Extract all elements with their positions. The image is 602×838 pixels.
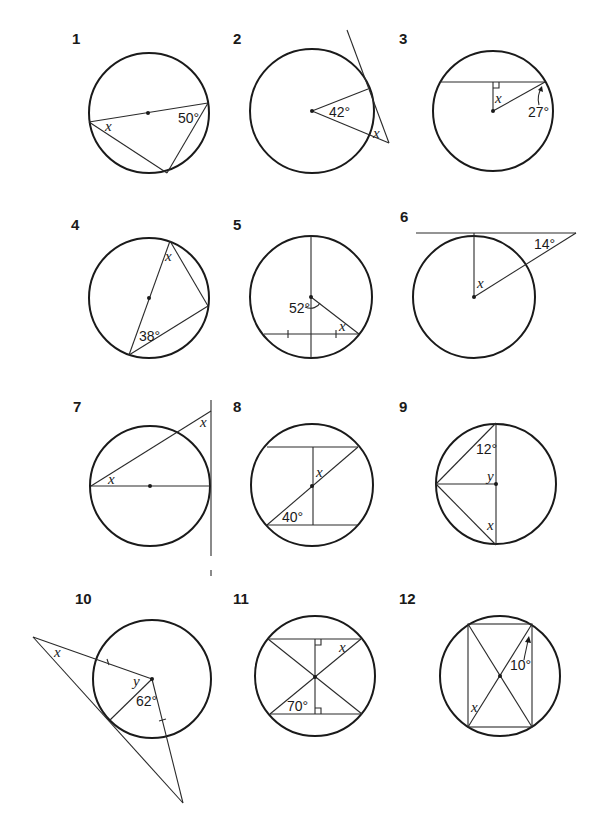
arrow-head-icon <box>525 636 531 643</box>
center-point <box>147 296 151 300</box>
radius <box>311 297 359 334</box>
center-point <box>491 109 495 113</box>
problem-number: 4 <box>71 216 80 233</box>
angle-label-unknown-2: x <box>199 414 207 430</box>
angle-label-given: 40° <box>282 509 303 525</box>
center-point <box>146 111 150 115</box>
problem-7: 7 x x <box>73 398 211 576</box>
problem-11: 11 x 70° <box>233 590 375 736</box>
angle-label-unknown: x <box>476 275 484 291</box>
angle-label-unknown: x <box>53 644 61 660</box>
problem-number: 9 <box>399 398 407 415</box>
problem-number: 7 <box>73 398 81 415</box>
problem-5: 5 52° x <box>233 216 372 358</box>
center-point <box>150 677 154 681</box>
right-angle-mark <box>493 82 499 88</box>
angle-label-unknown: x <box>494 90 502 106</box>
problem-6: 6 14° x <box>400 208 576 358</box>
angle-label-given: 14° <box>534 236 555 252</box>
problem-1: 1 x 50° <box>72 30 209 173</box>
problem-number: 5 <box>233 216 241 233</box>
problem-number: 1 <box>72 30 80 47</box>
problem-2: 2 42° x <box>233 30 389 173</box>
angle-label-given: 62° <box>136 693 157 709</box>
angle-label-unknown: x <box>338 639 346 655</box>
center-point <box>310 484 314 488</box>
angle-label-given: 52° <box>289 300 310 316</box>
problem-3: 3 x 27° <box>399 30 553 171</box>
problem-number: 8 <box>233 398 241 415</box>
center-point <box>472 295 476 299</box>
angle-label-given: 70° <box>287 698 308 714</box>
problem-12: 12 10° x <box>399 590 560 736</box>
angle-label-unknown: x <box>470 699 478 715</box>
chord <box>170 241 208 306</box>
arrow-head-icon <box>538 86 543 92</box>
tangent-line <box>347 30 389 143</box>
angle-label-unknown: x <box>486 517 494 533</box>
secant <box>474 233 576 297</box>
right-angle-mark <box>315 639 321 645</box>
problem-10: 10 x y 62° <box>33 590 211 803</box>
congruence-tick <box>107 659 109 665</box>
problem-number: 10 <box>75 590 92 607</box>
angle-label-given: 50° <box>178 110 199 126</box>
angle-label-unknown-2: y <box>485 468 494 484</box>
center-point <box>498 674 502 678</box>
angle-label-unknown: x <box>107 471 115 487</box>
exercise-sheet: 1 x 50° 2 42° x 3 x 27° 4 <box>0 0 602 838</box>
center-point <box>148 484 152 488</box>
angle-label-unknown: x <box>338 318 346 334</box>
problem-8: 8 x 40° <box>233 398 373 546</box>
angle-label-unknown: x <box>164 248 172 264</box>
problem-9: 9 12° y x <box>399 398 556 545</box>
center-point <box>313 675 317 679</box>
angle-label-given: 12° <box>476 441 497 457</box>
angle-label-unknown-2: y <box>131 673 140 689</box>
angle-label-given: 42° <box>329 104 350 120</box>
angle-label-given: 10° <box>510 657 531 673</box>
problem-number: 3 <box>399 30 407 47</box>
problem-number: 12 <box>399 590 416 607</box>
angle-label-given: 38° <box>139 328 160 344</box>
problem-number: 11 <box>233 590 249 607</box>
angle-label-unknown: x <box>104 118 112 134</box>
angle-label-unknown: x <box>372 125 380 141</box>
angle-label-given: 27° <box>528 104 549 120</box>
center-point <box>309 295 313 299</box>
problem-number: 6 <box>400 208 408 225</box>
center-point <box>310 109 314 113</box>
right-angle-mark <box>315 708 321 714</box>
problem-4: 4 x 38° <box>71 216 209 358</box>
problem-number: 2 <box>233 30 241 47</box>
center-point <box>494 482 498 486</box>
angle-label-unknown: x <box>315 464 323 480</box>
